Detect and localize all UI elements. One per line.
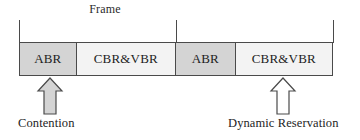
slot-cell-abr-3: ABR — [176, 43, 236, 75]
frame-start-tick — [19, 20, 20, 43]
frame-divider-tick — [176, 20, 177, 43]
frame-end-tick — [333, 20, 334, 43]
contention-arrow — [35, 76, 65, 116]
dynamic-reservation-label: Dynamic Reservation — [228, 116, 339, 131]
dynamic-reservation-arrow — [268, 76, 298, 116]
contention-label: Contention — [18, 116, 75, 131]
slot-cell-abr-1: ABR — [20, 43, 77, 75]
frame-timeline-bar: ABRCBR&VBRABRCBR&VBR — [19, 42, 333, 76]
slot-cell-cbr-4: CBR&VBR — [236, 43, 332, 75]
frame-span-label: Frame — [60, 2, 150, 17]
slot-cell-cbr-2: CBR&VBR — [77, 43, 176, 75]
atm-frame-structure-diagram: Frame ABRCBR&VBRABRCBR&VBR ContentionDyn… — [0, 0, 360, 140]
